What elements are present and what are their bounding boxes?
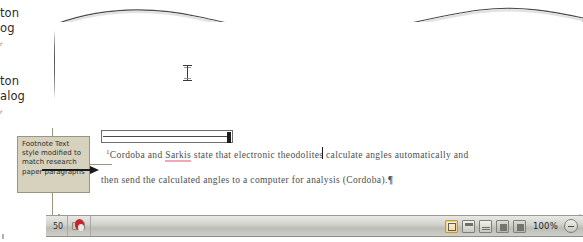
footnote-line-1-before: Cordoba and [110,150,165,160]
pilcrow-mark: ¶ [388,175,393,185]
misspelled-word: Sarkis [165,150,191,162]
page-count-label: 50 [50,222,63,231]
i-beam-cursor-icon [183,64,192,82]
outline-view-button[interactable] [496,220,509,233]
text-insertion-caret [322,147,323,159]
proofing-errors-icon[interactable] [72,219,86,233]
footnote-separator-object[interactable] [101,130,233,143]
footnote-line-1-after: state that electronic theodolites calcul… [191,150,468,160]
footnote-text-line-2[interactable]: then send the calculated angles to a com… [101,175,393,185]
zoom-level-label[interactable]: 100% [533,221,564,231]
margin-text-fragment-2-line-1: ton [0,74,19,88]
margin-text-fragment-1-line-2: og [0,21,15,35]
callout-leader-bottom [52,193,53,215]
page-count-cell[interactable]: 50 [46,216,68,236]
margin-text-fragment-2-line-3: r [0,105,3,119]
margin-text-fragment-1-line-1: ton [0,6,19,20]
margin-text-fragment-2-line-2: alog [0,89,25,103]
screenshot-root: ton og r ton alog r 1Cordoba and [0,0,583,242]
status-bar: 50 100% [46,215,583,237]
draft-view-button[interactable] [513,220,526,233]
callout-leader-right [90,164,112,165]
margin-text-fragment-1-line-3: r [0,37,3,51]
selection-handle[interactable] [227,132,231,143]
footnote-text-line-1[interactable]: 1Cordoba and Sarkis state that electroni… [106,148,469,160]
footnote-line-2-text: then send the calculated angles to a com… [101,175,388,185]
zoom-out-minus-icon[interactable] [564,219,578,233]
web-layout-view-button[interactable] [479,220,492,233]
footnote-separator-rule [103,136,231,137]
annotation-arrow-icon [42,166,100,174]
stray-mark [2,234,4,239]
full-screen-reading-view-button[interactable] [462,220,475,233]
status-bar-spacer [91,216,445,236]
document-page-area[interactable] [55,22,583,214]
print-layout-view-button[interactable] [445,220,458,233]
annotation-callout: Footnote Text style modified to match re… [17,136,90,193]
proofing-errors-cell[interactable] [68,216,91,236]
view-mode-buttons [445,220,533,233]
